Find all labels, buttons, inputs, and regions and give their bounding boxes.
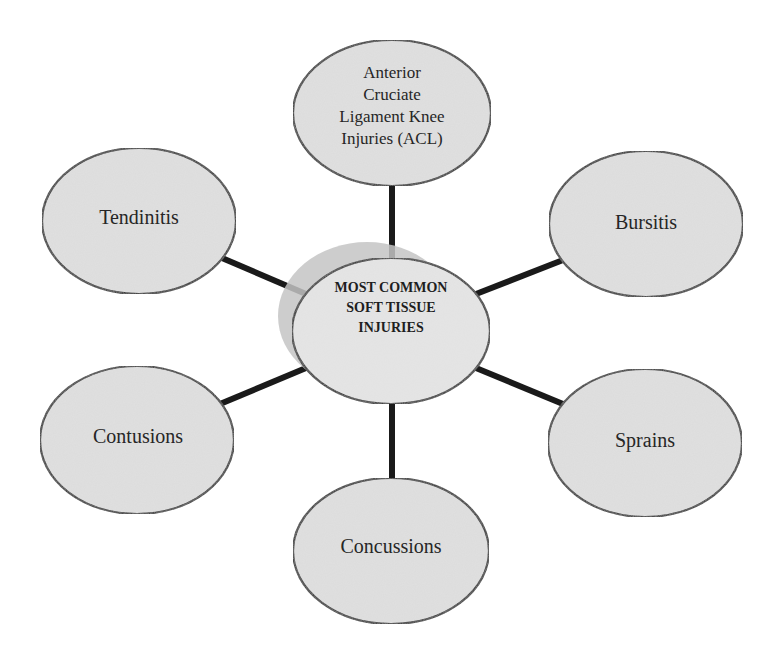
connector-sprains (476, 368, 563, 404)
center-node-ellipse (292, 258, 490, 404)
connector-contusions (220, 368, 306, 404)
node-acl-ellipse (293, 40, 491, 186)
node-sprains-ellipse (548, 369, 742, 517)
node-tendinitis-ellipse (42, 148, 236, 294)
node-contusions-ellipse (40, 366, 234, 514)
connector-bursitis (476, 260, 563, 294)
node-concussions-ellipse (293, 478, 489, 624)
soft-tissue-injuries-diagram: MOST COMMON SOFT TISSUE INJURIES Anterio… (0, 0, 776, 659)
diagram-canvas (0, 0, 776, 659)
node-bursitis-ellipse (549, 151, 743, 297)
